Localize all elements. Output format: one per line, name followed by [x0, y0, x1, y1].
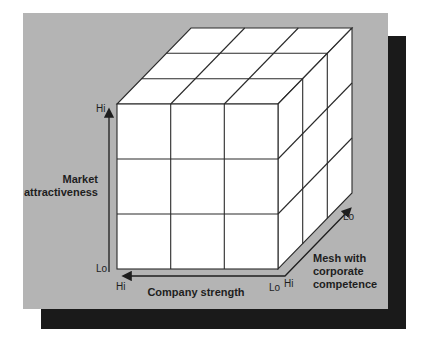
vertical-hi-label: Hi [96, 103, 105, 114]
vertical-lo-label: Lo [96, 263, 108, 274]
cube-diagram: Hi Lo Market attractiveness Hi Lo Compan… [0, 0, 423, 342]
vertical-axis-label-line1: Market [63, 173, 99, 185]
horizontal-axis-label: Company strength [147, 286, 244, 298]
depth-lo-label: Lo [343, 211, 355, 222]
cube-front-face [117, 104, 278, 269]
depth-axis-label-line3: competence [313, 278, 377, 290]
horizontal-lo-label: Lo [269, 282, 281, 293]
depth-axis-label-line2: corporate [313, 265, 364, 277]
depth-hi-label: Hi [284, 278, 293, 289]
horizontal-hi-label: Hi [116, 281, 125, 292]
vertical-axis-label-line2: attractiveness [24, 186, 98, 198]
depth-axis-label-line1: Mesh with [313, 252, 366, 264]
cube [117, 28, 352, 269]
